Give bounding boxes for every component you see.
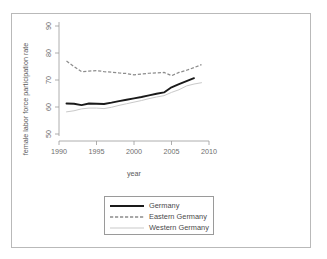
x-tick-label-2000: 2000: [126, 147, 142, 156]
y-tick-group: 90 80 70 60 50: [44, 22, 59, 138]
legend-label-western-germany: Western Germany: [149, 223, 209, 233]
y-tick-label-90: 90: [44, 22, 53, 30]
y-axis-title: female labor force participation rate: [21, 43, 30, 156]
y-tick-label-80: 80: [44, 49, 53, 57]
chart-legend: Germany Eastern Germany Western Germany: [104, 196, 214, 235]
x-tick-label-1995: 1995: [89, 147, 105, 156]
legend-key-germany: [109, 201, 145, 211]
legend-key-western-germany: [109, 223, 145, 233]
x-tick-group: 1990 1995 2000 2005 2010: [51, 141, 217, 156]
series-line-eastern-germany: [67, 61, 202, 76]
legend-label-eastern-germany: Eastern Germany: [149, 212, 207, 222]
x-tick-label-1990: 1990: [51, 147, 67, 156]
legend-item-eastern-germany: Eastern Germany: [109, 211, 209, 222]
legend-label-germany: Germany: [149, 201, 179, 211]
legend-item-western-germany: Western Germany: [109, 222, 209, 233]
y-tick-label-70: 70: [44, 76, 53, 84]
x-axis-title: year: [127, 169, 142, 178]
figure-frame: female labor force participation rate 90…: [11, 13, 311, 248]
legend-key-eastern-germany: [109, 212, 145, 222]
y-tick-label-50: 50: [44, 130, 53, 138]
y-tick-label-60: 60: [44, 103, 53, 111]
series-line-western-germany: [67, 83, 202, 112]
legend-item-germany: Germany: [109, 200, 209, 211]
x-tick-label-2010: 2010: [201, 147, 217, 156]
x-tick-label-2005: 2005: [164, 147, 180, 156]
